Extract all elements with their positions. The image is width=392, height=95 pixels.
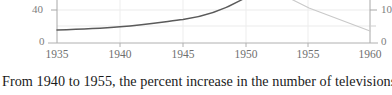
x-axis-label-1960: 1960 bbox=[359, 49, 382, 61]
right-axis-label-0: 0 bbox=[381, 36, 387, 47]
caption-text: From 1940 to 1955, the percent increase … bbox=[2, 72, 392, 92]
left-axis-label-0: 0 bbox=[39, 36, 45, 47]
left-axis-label-40: 40 bbox=[32, 4, 43, 15]
vertical-gridlines bbox=[120, 0, 308, 43]
chart-screenshot: 40 0 10 0 1935 1940 1945 1950 1955 1960 … bbox=[0, 0, 392, 95]
right-axis-ticks bbox=[370, 10, 377, 26]
x-axis-label-1955: 1955 bbox=[297, 49, 320, 61]
x-axis-label-1945: 1945 bbox=[172, 49, 195, 61]
right-axis-label-10: 10 bbox=[381, 4, 392, 15]
x-axis-label-1935: 1935 bbox=[46, 49, 69, 61]
x-axis-label-1940: 1940 bbox=[109, 49, 132, 61]
x-axis-ticks bbox=[120, 43, 308, 47]
chart-plot-area: 40 0 10 0 1935 1940 1945 1950 1955 1960 bbox=[0, 0, 392, 62]
x-axis-label-1950: 1950 bbox=[235, 49, 258, 61]
